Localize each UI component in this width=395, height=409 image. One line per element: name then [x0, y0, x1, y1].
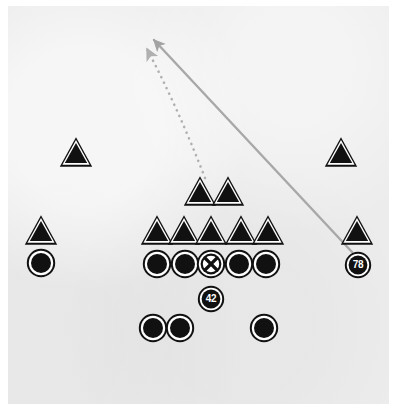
triangle-icon [324, 137, 358, 168]
lineman-3 [194, 215, 228, 250]
center-x-icon [196, 249, 226, 279]
triangle-icon [59, 137, 93, 168]
numbered-circle-icon [197, 285, 225, 313]
receiver-left-wide [26, 248, 56, 282]
lineman-5 [251, 215, 285, 250]
player-78: 78 [344, 251, 372, 279]
center-ball-marker [196, 249, 226, 283]
lineman-right-tackle [251, 249, 281, 283]
circle-icon [142, 249, 172, 279]
back-right [249, 313, 279, 347]
lineman-right-guard [224, 249, 254, 283]
circle-icon [251, 249, 281, 279]
defender-right-outside [324, 137, 358, 172]
triangle-icon [194, 215, 228, 246]
defender-left-wide [24, 215, 58, 250]
football-play-diagram: 4278 [0, 0, 395, 409]
back-left [138, 313, 168, 347]
circle-icon [138, 313, 168, 343]
triangle-icon [251, 215, 285, 246]
triangle-icon [211, 176, 245, 207]
defender-right-wide [340, 215, 374, 250]
defender-left-outside [59, 137, 93, 172]
circle-icon [26, 248, 56, 278]
circle-icon [249, 313, 279, 343]
lineman-left-tackle [142, 249, 172, 283]
player-42: 42 [197, 285, 225, 313]
numbered-circle-icon [344, 251, 372, 279]
back-middle [165, 313, 195, 347]
triangle-icon [340, 215, 374, 246]
circle-icon [165, 313, 195, 343]
circle-icon [224, 249, 254, 279]
linebacker-right [211, 176, 245, 211]
triangle-icon [24, 215, 58, 246]
